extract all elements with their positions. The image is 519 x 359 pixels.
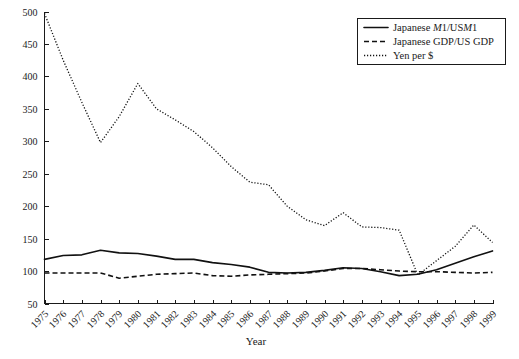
x-axis-tick-labels: 1975197619771978197919801981198219831984… bbox=[28, 308, 498, 330]
series-line-solid bbox=[45, 250, 493, 275]
x-tick-label: 1997 bbox=[438, 308, 460, 330]
x-tick-label: 1977 bbox=[65, 308, 87, 330]
y-axis-tick-labels: 50100150200250300350400450500 bbox=[23, 7, 38, 310]
y-tick-label: 300 bbox=[23, 136, 38, 147]
x-tick-label: 1984 bbox=[196, 308, 218, 330]
y-tick-label: 400 bbox=[23, 71, 38, 82]
y-tick-label: 500 bbox=[23, 7, 38, 18]
y-axis-tick-marks bbox=[45, 13, 49, 305]
x-tick-label: 1981 bbox=[140, 308, 162, 330]
x-tick-label: 1994 bbox=[382, 308, 404, 330]
y-tick-label: 50 bbox=[28, 299, 38, 310]
x-tick-label: 1980 bbox=[121, 308, 143, 330]
y-tick-label: 450 bbox=[23, 39, 38, 50]
series-line-dashed bbox=[45, 268, 493, 278]
x-axis-title: Year bbox=[246, 335, 267, 347]
x-tick-label: 1978 bbox=[84, 308, 106, 330]
x-tick-label: 1979 bbox=[102, 308, 124, 330]
y-tick-label: 100 bbox=[23, 266, 38, 277]
x-tick-label: 1986 bbox=[233, 308, 255, 330]
y-tick-label: 150 bbox=[23, 234, 38, 245]
x-tick-label: 1990 bbox=[308, 308, 330, 330]
x-tick-label: 1993 bbox=[364, 308, 386, 330]
x-tick-label: 1988 bbox=[270, 308, 292, 330]
x-tick-label: 1987 bbox=[252, 308, 274, 330]
x-tick-label: 1996 bbox=[420, 308, 442, 330]
chart-svg: 50100150200250300350400450500 1975197619… bbox=[0, 0, 519, 359]
x-tick-label: 1975 bbox=[28, 308, 50, 330]
x-tick-label: 1983 bbox=[177, 308, 199, 330]
chart-legend: Japanese M1/USM1Japanese GDP/US GDPYen p… bbox=[358, 19, 506, 65]
x-tick-label: 1992 bbox=[345, 308, 367, 330]
x-tick-label: 1999 bbox=[476, 308, 498, 330]
y-tick-label: 200 bbox=[23, 201, 38, 212]
x-tick-label: 1998 bbox=[457, 308, 479, 330]
chart-container: 50100150200250300350400450500 1975197619… bbox=[0, 0, 519, 359]
x-tick-label: 1985 bbox=[214, 308, 236, 330]
x-tick-label: 1995 bbox=[401, 308, 423, 330]
y-tick-label: 350 bbox=[23, 104, 38, 115]
legend-label: Japanese GDP/US GDP bbox=[393, 36, 494, 47]
x-tick-label: 1982 bbox=[158, 308, 180, 330]
x-axis-tick-marks bbox=[46, 300, 494, 304]
legend-label: Japanese M1/USM1 bbox=[393, 22, 477, 33]
y-tick-label: 250 bbox=[23, 169, 38, 180]
x-tick-label: 1989 bbox=[289, 308, 311, 330]
x-tick-label: 1991 bbox=[326, 308, 348, 330]
legend-label: Yen per $ bbox=[393, 50, 433, 61]
x-tick-label: 1976 bbox=[46, 308, 68, 330]
